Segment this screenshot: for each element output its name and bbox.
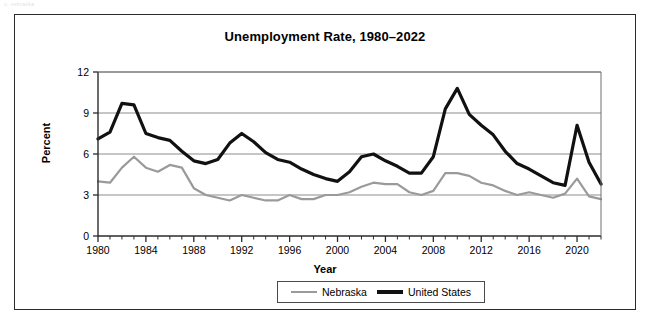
- y-tick-label: 3: [83, 189, 89, 201]
- y-tick-label: 0: [83, 230, 89, 242]
- x-tick-label: 2012: [470, 244, 494, 256]
- plot-area: 036912 198019841988199219962000200420082…: [15, 15, 637, 311]
- gridlines-group: [98, 72, 601, 195]
- x-tick-label: 1988: [182, 244, 206, 256]
- x-tick-label: 2000: [326, 244, 350, 256]
- x-tick-label: 2020: [565, 244, 589, 256]
- y-tick-label: 6: [83, 148, 89, 160]
- x-tick-label: 2008: [422, 244, 446, 256]
- data-series-group: [98, 88, 601, 200]
- figure-frame: Unemployment Rate, 1980–2022 Percent Yea…: [14, 14, 636, 310]
- legend: Nebraska United States: [277, 281, 485, 303]
- legend-label-united-states: United States: [408, 286, 471, 298]
- x-tick-label: 1996: [278, 244, 302, 256]
- x-tick-group: 1980198419881992199620002004200820122016…: [86, 236, 601, 256]
- series-line-united-states: [98, 88, 601, 185]
- line-swatch-united-states-icon: [377, 290, 403, 294]
- y-tick-label: 12: [77, 66, 89, 78]
- x-tick-label: 1992: [230, 244, 254, 256]
- x-tick-label: 2004: [374, 244, 398, 256]
- y-tick-label: 9: [83, 107, 89, 119]
- legend-entry-nebraska: Nebraska: [291, 286, 367, 298]
- x-tick-label: 2016: [517, 244, 541, 256]
- series-line-nebraska: [98, 157, 601, 201]
- scan-header-artifact: u. nebraska: [4, 1, 114, 8]
- y-tick-group: 036912: [77, 66, 98, 242]
- line-swatch-nebraska-icon: [291, 291, 317, 294]
- x-tick-label: 1980: [86, 244, 110, 256]
- legend-entry-united-states: United States: [377, 286, 471, 298]
- x-tick-label: 1984: [134, 244, 158, 256]
- legend-label-nebraska: Nebraska: [322, 286, 367, 298]
